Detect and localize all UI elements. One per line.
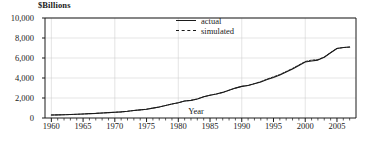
x-tick-label: 1990	[233, 122, 250, 131]
x-tick-label: 2000	[297, 122, 314, 131]
y-tick-label: 6,000	[0, 54, 34, 63]
y-tick-label: 2,000	[0, 94, 34, 103]
x-tick-label: 1960	[43, 122, 60, 131]
legend-line-swatch-icon	[176, 17, 196, 24]
y-tick-label: 4,000	[0, 74, 34, 83]
y-tick-label: 10,000	[0, 14, 34, 23]
legend-item-actual: actual	[176, 16, 234, 25]
legend-item-simulated: simulated	[176, 26, 234, 35]
x-tick-label: 2005	[328, 122, 345, 131]
line-chart: $Billions 02,0004,0006,0008,00010,000 Ye…	[0, 0, 370, 146]
x-axis-title: Year	[188, 107, 204, 116]
data-series	[51, 47, 349, 115]
legend-label: simulated	[201, 26, 234, 36]
legend-line-swatch-icon	[176, 27, 196, 34]
x-tick-label: 1970	[106, 122, 123, 131]
series-line-simulated	[51, 47, 349, 115]
x-tick-label: 1975	[138, 122, 155, 131]
y-tick-label: 0	[0, 114, 34, 123]
x-axis-tick-labels: 1960196519701975198019851990199520002005	[0, 122, 370, 136]
x-tick-label: 1980	[170, 122, 187, 131]
y-tick-label: 8,000	[0, 34, 34, 43]
chart-legend: actualsimulated	[176, 16, 234, 36]
y-axis-unit-label: $Billions	[38, 0, 71, 11]
x-tick-label: 1985	[202, 122, 219, 131]
series-line-actual	[51, 47, 349, 115]
x-tick-label: 1965	[75, 122, 92, 131]
legend-label: actual	[201, 16, 221, 26]
x-tick-label: 1995	[265, 122, 282, 131]
